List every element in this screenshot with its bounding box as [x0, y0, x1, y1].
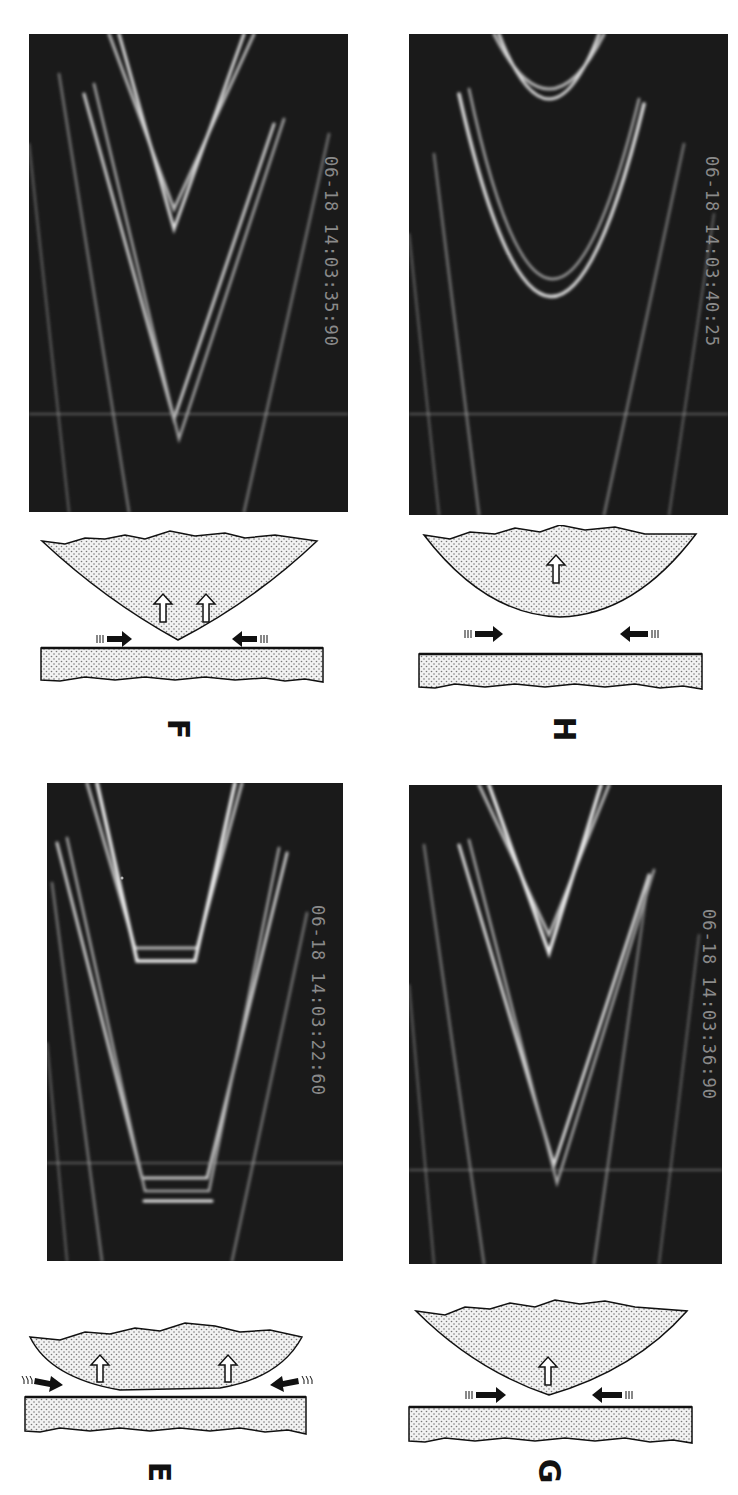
contact-diagram-e [20, 1318, 320, 1443]
plate-h [419, 654, 702, 689]
fringe-pattern-e [47, 783, 343, 1261]
timestamp-e: 06-18 14:03:22:60 [308, 905, 328, 1096]
panel-label-f: F [163, 709, 193, 749]
lens-f [42, 531, 317, 640]
side-arrow-e-left [22, 1376, 63, 1392]
side-arrow-h-right [620, 626, 658, 642]
side-arrow-g-left [466, 1387, 506, 1403]
contact-diagram-h [415, 525, 715, 695]
fringe-photo-f: 06-18 14:03:35:90 [29, 34, 348, 512]
panel-label-h: H [549, 709, 579, 749]
plate-e [25, 1397, 306, 1434]
fringe-pattern-h [409, 34, 728, 515]
fringe-pattern-f [29, 34, 348, 512]
side-arrow-g-right [592, 1387, 632, 1403]
plate-f [41, 648, 323, 682]
timestamp-g: 06-18 14:03:36:90 [699, 909, 719, 1100]
panel-label-g: G [534, 1451, 564, 1491]
side-arrow-e-right [270, 1376, 312, 1392]
lens-e [30, 1323, 302, 1390]
panel-label-e: E [144, 1452, 174, 1492]
side-arrow-f-right [232, 631, 267, 647]
plate-g [409, 1407, 692, 1443]
timestamp-h: 06-18 14:03:40:25 [702, 156, 722, 347]
side-arrow-f-left [97, 631, 132, 647]
lens-h [424, 525, 696, 617]
side-arrow-h-left [465, 626, 503, 642]
contact-diagram-f [35, 530, 335, 690]
contact-diagram-g [405, 1295, 705, 1450]
fringe-photo-h: 06-18 14:03:40:25 [409, 34, 728, 515]
fringe-pattern-g [409, 785, 722, 1264]
fringe-photo-e: 06-18 14:03:22:60 [47, 783, 343, 1261]
fringe-photo-g: 06-18 14:03:36:90 [409, 785, 722, 1264]
timestamp-f: 06-18 14:03:35:90 [321, 156, 341, 347]
